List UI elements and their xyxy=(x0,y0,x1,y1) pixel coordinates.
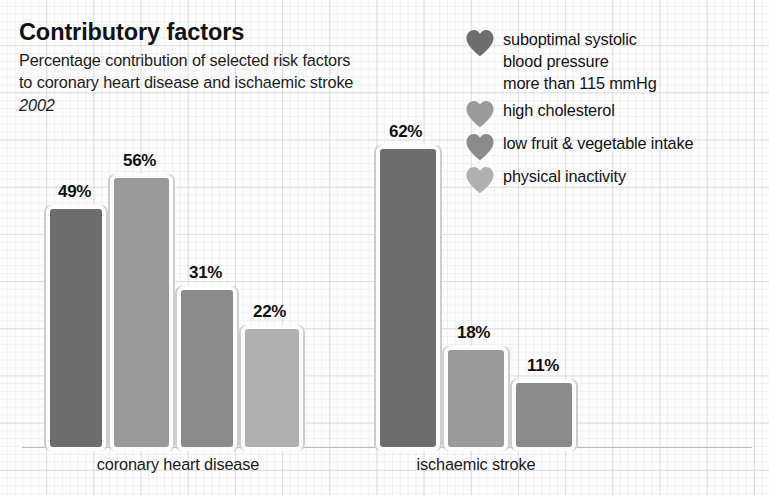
plot-area: 49% 56% 31% 22% 62% 18% 11% coronary hea… xyxy=(0,0,769,495)
bar-chd-physical-inactivity xyxy=(245,329,299,447)
bar-chd-cholesterol xyxy=(114,178,169,447)
bar-chd-fruit-vegetable xyxy=(181,290,233,447)
bar-value-label: 11% xyxy=(527,356,559,376)
bar-chd-blood-pressure xyxy=(50,209,102,447)
bar-value-label: 22% xyxy=(253,302,286,322)
bar-value-label: 18% xyxy=(457,323,490,343)
bar-stroke-blood-pressure xyxy=(380,149,436,447)
category-label-ischaemic-stroke: ischaemic stroke xyxy=(406,455,546,474)
bar-value-label: 31% xyxy=(189,263,222,283)
category-label-coronary-heart-disease: coronary heart disease xyxy=(88,455,268,474)
bar-stroke-fruit-vegetable xyxy=(516,383,572,447)
bar-value-label: 56% xyxy=(123,151,156,171)
bar-stroke-cholesterol xyxy=(448,350,504,447)
bar-value-label: 49% xyxy=(58,182,91,202)
bar-value-label: 62% xyxy=(389,122,422,142)
